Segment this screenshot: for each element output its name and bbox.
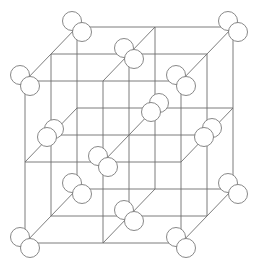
atom-front xyxy=(229,23,248,42)
atom-front xyxy=(142,103,161,122)
atom-front xyxy=(195,128,214,147)
atom-front xyxy=(73,23,92,42)
atom-front xyxy=(21,77,40,96)
atom-front xyxy=(177,77,196,96)
atom-front xyxy=(99,158,118,177)
atom-front xyxy=(177,239,196,258)
atom-front xyxy=(125,212,144,231)
fcc-lattice-figure xyxy=(0,0,261,263)
atom-front xyxy=(125,50,144,69)
lattice-diagram xyxy=(0,0,261,263)
atom-front xyxy=(73,185,92,204)
atom-front xyxy=(229,185,248,204)
atom-front xyxy=(38,128,57,147)
atom-pair-face-center-back xyxy=(142,94,169,122)
atom-front xyxy=(21,239,40,258)
atom-pair-face-center-left xyxy=(38,120,64,147)
atom-pair-face-center-right xyxy=(195,119,222,147)
